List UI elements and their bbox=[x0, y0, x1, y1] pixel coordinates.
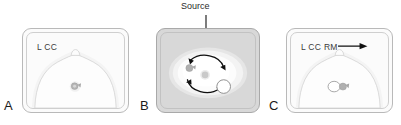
nipple bbox=[71, 50, 80, 56]
breast-halo bbox=[296, 51, 383, 108]
marker-clip-icon bbox=[161, 33, 255, 108]
source-label: Source bbox=[181, 2, 210, 11]
lesion-circle bbox=[161, 33, 255, 108]
panel-a[interactable]: L CC bbox=[22, 28, 129, 113]
breast-outline bbox=[35, 54, 116, 108]
center-dot bbox=[161, 33, 255, 108]
panel-c-view-label: L CC RM bbox=[301, 43, 338, 52]
panel-letter-a: A bbox=[4, 99, 13, 112]
panel-a-inner: L CC bbox=[26, 32, 125, 109]
breast-outline bbox=[299, 54, 380, 108]
panel-b-inner bbox=[160, 32, 256, 109]
figure-container: Source L CC A bbox=[0, 0, 401, 125]
panel-letter-b: B bbox=[140, 99, 149, 112]
rotation-arrows-icon bbox=[161, 33, 255, 108]
panel-letter-c: C bbox=[269, 99, 278, 112]
panel-b-graphic bbox=[161, 33, 255, 108]
breast-halo bbox=[32, 51, 119, 108]
panel-a-view-label: L CC bbox=[37, 43, 57, 52]
panel-b[interactable] bbox=[156, 28, 260, 113]
panel-c-inner: L CC RM bbox=[290, 32, 389, 109]
panel-c[interactable]: L CC RM bbox=[286, 28, 393, 113]
